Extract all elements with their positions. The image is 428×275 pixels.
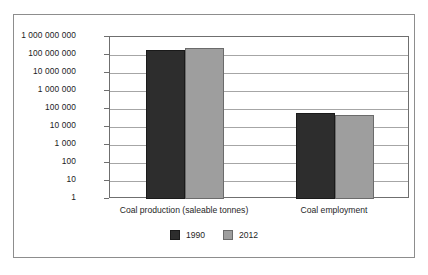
legend-swatch-gray-icon <box>223 230 233 240</box>
y-axis-tick-label: 10 000 000 <box>33 67 76 76</box>
y-axis-tick-label: 100 000 000 <box>28 49 76 58</box>
legend-label-2012: 2012 <box>239 230 258 240</box>
legend-item-1990[interactable]: 1990 <box>170 230 205 240</box>
bar-2012-coal-employment <box>335 115 374 199</box>
bar-2012-coal-production <box>185 48 224 199</box>
y-axis-tick-label: 1 000 000 000 <box>21 31 76 40</box>
bar-1990-coal-employment <box>296 113 335 199</box>
chart-legend: 1990 2012 <box>14 230 414 240</box>
category-label-coal-employment: Coal employment <box>234 205 428 215</box>
y-axis-tick-label: 10 <box>66 175 76 184</box>
y-axis-tick-label: 100 000 <box>45 103 76 112</box>
bar-1990-coal-production <box>146 50 185 199</box>
legend-item-2012[interactable]: 2012 <box>223 230 258 240</box>
screenshot-canvas: 1 000 000 000100 000 00010 000 0001 000 … <box>0 0 428 275</box>
y-axis-tick-label: 1 <box>71 193 76 202</box>
y-axis-tick-label: 1 000 <box>55 139 76 148</box>
legend-label-1990: 1990 <box>186 230 205 240</box>
y-axis-tick-label: 1 000 000 <box>38 85 76 94</box>
legend-swatch-dark-icon <box>170 230 180 240</box>
y-axis-tick-mark <box>104 198 109 199</box>
y-axis-tick-label: 100 <box>62 157 76 166</box>
y-axis-tick-label: 10 000 <box>50 121 76 130</box>
chart-card: 1 000 000 000100 000 00010 000 0001 000 … <box>13 14 415 258</box>
plot-area <box>109 36 409 198</box>
